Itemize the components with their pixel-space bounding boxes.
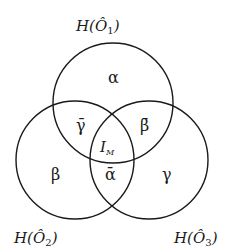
set-label-o1: H(Ô1) — [75, 17, 120, 36]
set-label-o2: H(Ô2) — [13, 229, 58, 248]
set-circle-o1 — [53, 43, 173, 163]
region-o1-o3: β̄ — [140, 116, 149, 135]
venn-diagram: H(Ô1) H(Ô2) H(Ô3) α β γ γ̄ β̄ ᾱ IM — [0, 0, 234, 252]
region-o2-o3: ᾱ — [105, 165, 116, 184]
set-label-o3: H(Ô3) — [173, 229, 218, 248]
region-only-o2: β — [51, 165, 60, 184]
set-circle-o2 — [16, 101, 134, 219]
region-only-o3: γ — [162, 165, 172, 184]
region-center-im: IM — [99, 138, 115, 157]
region-o1-o2: γ̄ — [76, 116, 86, 135]
region-only-o1: α — [108, 68, 119, 87]
